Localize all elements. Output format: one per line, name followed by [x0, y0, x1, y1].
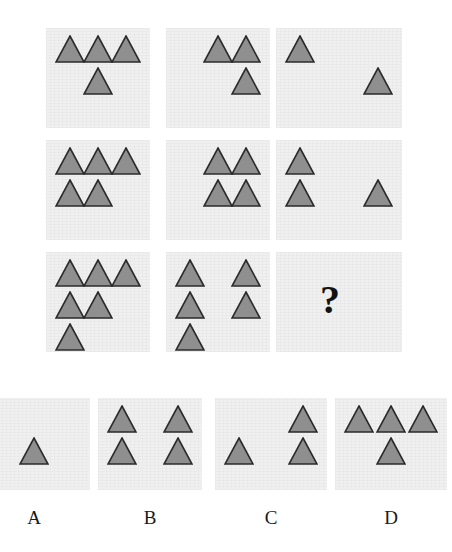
triangle-icon — [111, 147, 141, 175]
missing-cell-question-mark: ? — [320, 280, 340, 320]
triangle-icon — [363, 179, 393, 207]
triangle-icon — [55, 291, 85, 319]
triangle-icon — [83, 67, 113, 95]
answer-option-label-d[interactable]: D — [335, 508, 447, 527]
triangle-icon — [376, 405, 406, 433]
triangle-icon — [55, 179, 85, 207]
triangle-icon — [111, 35, 141, 63]
triangle-icon — [231, 179, 261, 207]
triangle-icon — [175, 291, 205, 319]
triangle-icon — [285, 179, 315, 207]
triangle-icon — [203, 147, 233, 175]
triangle-icon — [231, 147, 261, 175]
triangle-icon — [83, 35, 113, 63]
triangle-icon — [83, 147, 113, 175]
triangle-icon — [344, 405, 374, 433]
triangle-icon — [231, 35, 261, 63]
triangle-icon — [163, 437, 193, 465]
triangle-icon — [107, 437, 137, 465]
triangle-icon — [376, 437, 406, 465]
triangle-icon — [408, 405, 438, 433]
triangle-icon — [288, 437, 318, 465]
triangle-icon — [83, 179, 113, 207]
triangle-icon — [163, 405, 193, 433]
triangle-icon — [231, 67, 261, 95]
answer-option-label-c[interactable]: C — [215, 508, 327, 527]
triangle-icon — [231, 259, 261, 287]
triangle-icon — [83, 259, 113, 287]
triangle-icon — [203, 35, 233, 63]
triangle-icon — [55, 259, 85, 287]
triangle-icon — [83, 291, 113, 319]
triangle-icon — [55, 147, 85, 175]
triangle-icon — [288, 405, 318, 433]
triangle-icon — [203, 179, 233, 207]
puzzle-canvas: ?ABCD — [0, 0, 452, 552]
answer-option-label-b[interactable]: B — [98, 508, 202, 527]
triangle-icon — [363, 67, 393, 95]
triangle-icon — [175, 323, 205, 351]
triangle-icon — [19, 437, 49, 465]
triangle-icon — [285, 35, 315, 63]
triangle-icon — [55, 35, 85, 63]
triangle-icon — [175, 259, 205, 287]
triangle-icon — [107, 405, 137, 433]
triangle-icon — [224, 437, 254, 465]
triangle-icon — [55, 323, 85, 351]
triangle-icon — [111, 259, 141, 287]
triangle-icon — [285, 147, 315, 175]
answer-option-label-a[interactable]: A — [0, 508, 90, 527]
triangle-icon — [231, 291, 261, 319]
